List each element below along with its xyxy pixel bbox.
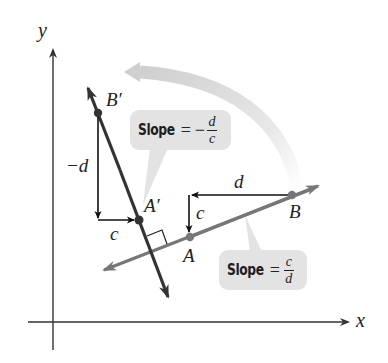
equals-sign: = <box>270 260 280 281</box>
label-run-c-rotated: c <box>110 224 118 243</box>
slope-word: Slope <box>227 261 264 279</box>
slope-callout-original: Slope = c d <box>219 250 307 290</box>
x-axis-label: x <box>356 310 365 330</box>
y-axis-label: y <box>38 20 47 40</box>
label-neg-d: −d <box>66 156 88 175</box>
callout-pointer-original <box>245 215 262 252</box>
diagram-canvas <box>0 0 388 363</box>
label-B-prime: B′ <box>106 90 122 109</box>
point-B-prime <box>94 109 102 117</box>
label-A-prime: A′ <box>144 196 160 215</box>
label-A: A <box>183 246 195 265</box>
point-B <box>288 191 296 199</box>
slope-word: Slope <box>138 121 175 139</box>
right-angle-marker <box>147 230 167 244</box>
numerator: d <box>208 115 215 129</box>
label-rise-c: c <box>196 203 204 222</box>
negative-sign: − <box>195 120 205 141</box>
label-run-d: d <box>234 172 244 191</box>
slope-fraction: d c <box>207 115 217 146</box>
slope-fraction: c d <box>284 255 294 286</box>
denominator: c <box>209 132 215 146</box>
numerator: c <box>286 255 292 269</box>
point-A-prime <box>135 216 144 225</box>
equals-sign: = <box>181 120 191 141</box>
slope-callout-rotated: Slope = − d c <box>130 110 231 150</box>
label-B: B <box>289 202 301 221</box>
perpendicular-slope-diagram: y x B′ A′ A B −d c d c Slope = − d c Slo… <box>0 0 388 363</box>
denominator: d <box>285 272 292 286</box>
point-A <box>186 233 194 241</box>
